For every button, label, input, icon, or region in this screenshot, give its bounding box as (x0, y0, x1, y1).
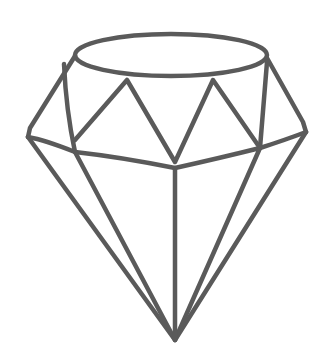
diamond-table (75, 34, 267, 76)
diamond-pavilion (28, 132, 306, 340)
diamond-icon (0, 0, 327, 362)
